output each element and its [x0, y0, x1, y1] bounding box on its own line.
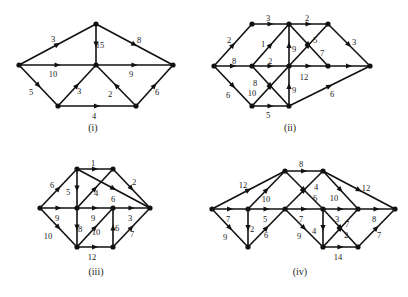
edge-weight-label: 10 — [330, 193, 339, 203]
arrow-icon — [301, 206, 307, 211]
node-BL — [74, 244, 79, 249]
node-BL — [55, 103, 60, 108]
node-BR — [133, 103, 138, 108]
edge-weight-label: 7 — [377, 230, 381, 240]
network-diagram-ii: 2323821219710586596(ii) — [211, 13, 372, 134]
node-J — [286, 103, 291, 108]
arrow-icon — [74, 186, 79, 192]
edge-weight-label: 12 — [88, 252, 97, 262]
edge-weight-label: 8 — [137, 35, 141, 45]
diagram-caption: (ii) — [284, 122, 296, 134]
edge-weight-label: 8 — [232, 56, 236, 66]
edge-weight-label: 9 — [91, 213, 95, 223]
node-A — [211, 63, 216, 68]
node-G — [325, 63, 330, 68]
edge-weight-label: 8 — [299, 159, 303, 169]
edge-weight-label: 12 — [362, 183, 371, 193]
arrow-icon — [227, 206, 233, 211]
edge-weight-label: 3 — [128, 213, 132, 223]
diagram-caption: (iii) — [89, 266, 104, 278]
node-R — [147, 205, 152, 210]
node-P2 — [245, 206, 250, 211]
arrow-icon — [338, 244, 344, 249]
edge-weight-label: 4 — [312, 226, 317, 236]
edge-weight-label: 3 — [335, 214, 339, 224]
arrow-icon — [264, 206, 270, 211]
edge-weight-label: 6 — [226, 90, 230, 100]
edge-weight-label: 6 — [313, 193, 317, 203]
edge-weight-label: 12 — [300, 72, 309, 82]
network-diagram-i: 315810953246(i) — [16, 21, 175, 134]
node-B — [249, 21, 254, 26]
edge-weight-label: 6 — [330, 89, 334, 99]
node-C — [93, 62, 98, 67]
edge-weight-label: 10 — [262, 194, 271, 204]
network-diagram-iii: 612654993108101267(iii) — [37, 158, 152, 278]
node-C — [286, 21, 291, 26]
node-B3 — [355, 244, 360, 249]
node-P4 — [320, 206, 325, 211]
edge-weight-label: 6 — [50, 180, 54, 190]
edge-weight-label: 4 — [314, 182, 319, 192]
edge-weight-label: 2 — [132, 177, 136, 187]
edge-weight-label: 14 — [334, 252, 343, 262]
edge-weight-label: 4 — [94, 188, 99, 198]
edge-weight-label: 2 — [227, 35, 231, 45]
edge-weight-label: 7 — [130, 229, 134, 239]
edge-weight-label: 2 — [305, 13, 309, 23]
edge-weight-label: 1 — [91, 158, 95, 168]
edge-weight-label: 7 — [226, 214, 230, 224]
edge-weight-label: 8 — [372, 214, 376, 224]
edge-weight-label: 9 — [292, 85, 296, 95]
edge-weight-label: 6 — [264, 230, 268, 240]
node-M — [110, 205, 115, 210]
edge-weight-label: 15 — [96, 40, 105, 50]
node-T — [93, 21, 98, 26]
edge-weight-label: 3 — [51, 34, 55, 44]
edge-weight-label: 10 — [92, 227, 101, 237]
arrow-icon — [92, 205, 98, 210]
node-L — [37, 205, 42, 210]
arrow-icon — [286, 42, 291, 48]
edge-weight-label: 9 — [55, 213, 59, 223]
edge-weight-label: 5 — [29, 87, 33, 97]
node-D — [325, 21, 330, 26]
edge-weight-label: 10 — [49, 69, 58, 79]
arrow-icon — [110, 185, 118, 192]
node-P1 — [209, 206, 214, 211]
edge-weight-label: 10 — [248, 88, 257, 98]
arrow-icon — [286, 83, 291, 89]
edge-weight-label: 10 — [44, 231, 53, 241]
edge-weight-label: 2 — [250, 224, 254, 234]
arrow-icon — [338, 206, 344, 211]
network-diagram-iv: 12812106241075738926941477(iv) — [209, 159, 397, 278]
node-P6 — [392, 206, 397, 211]
arrow-icon — [92, 244, 98, 249]
arrow-icon — [306, 63, 312, 68]
edge-weight-label: 5 — [263, 214, 267, 224]
arrow-icon — [55, 62, 61, 67]
node-B1 — [245, 244, 250, 249]
arrow-icon — [301, 168, 307, 173]
arrow-icon — [346, 63, 352, 68]
arrow-icon — [132, 62, 138, 67]
node-R — [170, 62, 175, 67]
diagram-caption: (iv) — [293, 266, 307, 278]
node-T1 — [282, 168, 287, 173]
arrow-icon — [374, 206, 380, 211]
edge-weight-label: 3 — [352, 37, 356, 47]
network-figure: 315810953246(i) 2323821219710586596(ii) … — [0, 0, 408, 297]
arrow-icon — [56, 205, 62, 210]
arrow-icon — [129, 205, 135, 210]
edge-weight-label: 9 — [129, 69, 133, 79]
edge-weight-label: 8 — [253, 78, 257, 88]
node-I — [249, 103, 254, 108]
node-TL — [74, 166, 79, 171]
diagram-caption: (i) — [88, 122, 97, 134]
edge-weight-label: 3 — [77, 86, 81, 96]
edge-weight-label: 7 — [320, 48, 324, 58]
arrow-icon — [94, 103, 100, 108]
arrow-icon — [320, 225, 325, 231]
edge-weight-label: 1 — [261, 39, 265, 49]
edge-weight-label: 12 — [239, 180, 248, 190]
